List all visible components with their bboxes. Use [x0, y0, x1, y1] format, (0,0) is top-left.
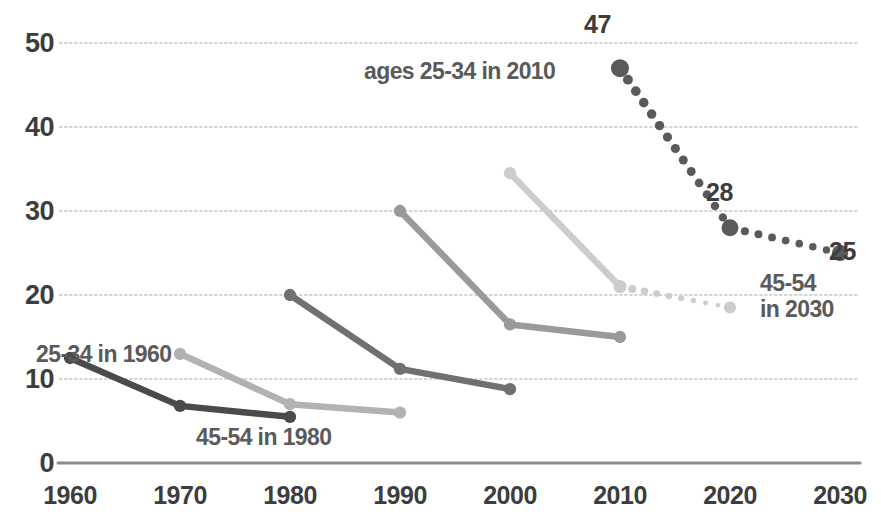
series-1-marker-1	[284, 398, 296, 410]
series-1-marker-2	[394, 406, 406, 418]
series-1-marker-0	[174, 348, 186, 360]
series-3-marker-0	[394, 205, 406, 217]
series-4-dot-4	[666, 293, 672, 299]
series-5-dot-13	[719, 213, 727, 221]
x-tick-2020: 2020	[675, 481, 785, 510]
y-tick-40: 40	[0, 112, 54, 143]
chart-container: 50 40 30 20 10 0 1960 1970 1980 1990 200…	[0, 0, 881, 531]
x-tick-1970: 1970	[125, 481, 235, 510]
y-tick-30: 30	[0, 196, 54, 227]
series-5-dot-20	[809, 243, 816, 250]
series-5-dot-15	[741, 227, 749, 235]
series-4-end-marker	[724, 302, 736, 314]
x-tick-2030: 2030	[785, 481, 881, 510]
series-3-line	[400, 211, 620, 337]
series-5-dot-4	[647, 109, 656, 118]
series-4-dot-5	[678, 295, 684, 301]
y-tick-0: 0	[0, 448, 54, 479]
series-3-marker-2	[614, 331, 626, 343]
series-2-marker-1	[394, 363, 406, 375]
series-5-dot-17	[768, 234, 776, 242]
y-tick-20: 20	[0, 280, 54, 311]
series-4-dot-6	[691, 298, 696, 303]
gridlines	[60, 43, 860, 379]
series-4-dot-3	[653, 290, 660, 297]
data-label-28: 28	[706, 178, 733, 207]
series-4-line	[510, 173, 620, 286]
series-2-marker-0	[284, 289, 296, 301]
series-4-dot-1	[628, 285, 636, 293]
series-0-marker-2	[284, 411, 296, 423]
x-tick-1960: 1960	[15, 481, 125, 510]
series-4-dotted	[613, 280, 735, 313]
annotation-45-54-in-1980: 45-54 in 1980	[196, 424, 331, 451]
series-5-dot-8	[679, 156, 688, 165]
x-tick-1990: 1990	[345, 481, 455, 510]
series-5-dot-6	[663, 132, 672, 141]
annotation-45-54-in-2030-line1: 45-54	[760, 270, 816, 297]
x-tick-2000: 2000	[455, 481, 565, 510]
data-label-47: 47	[584, 10, 611, 39]
series-5-mid-marker	[722, 219, 739, 236]
series-0-marker-1	[174, 400, 186, 412]
series-5-dot-1	[623, 75, 633, 85]
series-2-marker-2	[504, 383, 516, 395]
series-3-marker-1	[504, 318, 516, 330]
series-5-dot-10	[695, 179, 704, 188]
annotation-ages-25-34-in-2010: ages 25-34 in 2010	[364, 58, 555, 85]
series-5-dot-2	[631, 86, 641, 96]
series-4-marker-0	[504, 167, 516, 179]
series-5-dot-16	[754, 230, 762, 238]
series-4-dot-8	[716, 303, 720, 307]
annotation-45-54-in-2030-line2: in 2030	[760, 296, 834, 323]
y-tick-10: 10	[0, 364, 54, 395]
data-label-25: 25	[829, 237, 856, 266]
annotation-25-34-in-1960: 25-34 in 1960	[36, 341, 171, 368]
series-5-dot-5	[655, 121, 664, 130]
series-5-start-marker	[611, 59, 629, 77]
series-5-dot-9	[687, 167, 696, 176]
y-tick-50: 50	[0, 28, 54, 59]
series-5-dot-18	[782, 237, 790, 245]
series-5-dot-19	[795, 240, 803, 248]
x-tick-2010: 2010	[565, 481, 675, 510]
series-5-dot-3	[639, 98, 649, 108]
x-tick-1980: 1980	[235, 481, 345, 510]
series-4-dot-7	[703, 300, 708, 305]
series-4-dot-2	[641, 288, 648, 295]
series-5-dot-7	[671, 144, 680, 153]
series-4-vertex-0	[613, 280, 626, 293]
